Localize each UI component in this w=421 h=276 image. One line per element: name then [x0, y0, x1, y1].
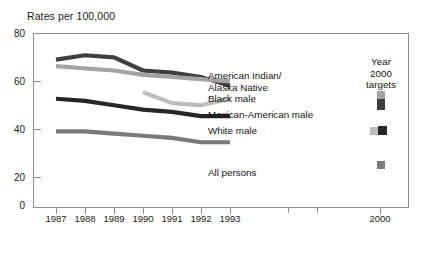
- targets-legend-line-1: Year: [371, 56, 391, 67]
- series-line-all-persons: [56, 131, 230, 142]
- chart-figure: Rates per 100,000 80 60 40 20 0 1987 198…: [0, 0, 421, 276]
- targets-legend-line-2: 2000: [370, 68, 392, 79]
- series-line-white-male: [56, 99, 230, 116]
- series-label-all-persons: All persons: [208, 167, 256, 179]
- series-label-american-indian-alaska-native: American Indian/ Alaska Native: [208, 70, 282, 93]
- series-label-line-1: American Indian/: [208, 70, 282, 81]
- target-marker-american-indian-alaska-native: [377, 99, 385, 110]
- series-lines: [56, 55, 230, 142]
- series-label-mexican-american-male: Mexican-American male: [208, 109, 313, 121]
- targets-legend-line-3: targets: [366, 79, 396, 90]
- series-label-line-2: Alaska Native: [208, 82, 268, 93]
- series-label-white-male: White male: [208, 125, 257, 137]
- plot-canvas: [0, 0, 421, 276]
- target-marker-all-persons: [377, 161, 385, 169]
- target-marker-white-male: [378, 126, 387, 135]
- series-label-black-male: Black male: [208, 93, 256, 105]
- targets-legend-title: Year 2000 targets: [356, 56, 406, 91]
- target-marker-black-male: [377, 91, 385, 99]
